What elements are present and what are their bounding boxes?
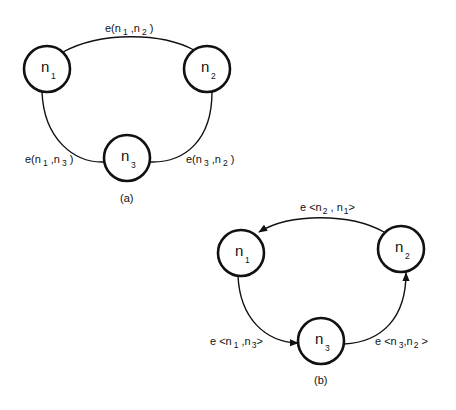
node-a-n3: n 3: [104, 135, 150, 181]
diagram-a: n 1 n 2 n 3 e(n1 ,n2 ) e(n1 ,n3 ) e(n3 ,…: [24, 22, 234, 204]
edge-a-n1-n2: [63, 37, 194, 52]
edge-label-a-n3-n2: e(n3 ,n2 ): [186, 153, 234, 168]
node-b-n1: n 1: [218, 230, 264, 276]
node-subscript: 3: [325, 343, 330, 353]
node-label: n: [121, 147, 129, 164]
node-label: n: [315, 330, 323, 347]
edge-label-b-n2-n1: e <n2 , n1>: [300, 201, 355, 216]
edge-a-n1-n3: [42, 92, 104, 162]
edge-label-a-n1-n2: e(n1 ,n2 ): [105, 22, 153, 37]
node-label: n: [395, 238, 403, 255]
node-subscript: 1: [51, 71, 56, 81]
caption-b: (b): [314, 374, 327, 386]
edge-label-b-n1-n3: e <n1 ,n3>: [210, 335, 263, 350]
edge-b-n2-n1: [259, 218, 384, 232]
caption-a: (a): [120, 192, 133, 204]
graph-figure: n 1 n 2 n 3 e(n1 ,n2 ) e(n1 ,n3 ) e(n3 ,…: [0, 0, 456, 410]
node-a-n2: n 2: [184, 46, 230, 92]
edge-label-a-n1-n3: e(n1 ,n3 ): [25, 153, 73, 168]
node-a-n1: n 1: [24, 46, 70, 92]
diagram-b: n 1 n 2 n 3 e <n2 , n1> e <n1 ,n3> e <n3…: [210, 201, 428, 386]
edge-a-n3-n2: [150, 92, 212, 162]
node-label: n: [201, 58, 209, 75]
edge-b-n3-n2: [344, 273, 406, 344]
node-subscript: 2: [211, 71, 216, 81]
node-b-n2: n 2: [378, 226, 424, 272]
edge-b-n1-n3: [238, 276, 298, 343]
node-subscript: 3: [131, 160, 136, 170]
node-label: n: [41, 58, 49, 75]
node-b-n3: n 3: [298, 318, 344, 364]
node-subscript: 1: [245, 255, 250, 265]
node-label: n: [235, 242, 243, 259]
edge-label-b-n3-n2: e <n3,n2 >: [375, 335, 428, 350]
node-subscript: 2: [405, 251, 410, 261]
